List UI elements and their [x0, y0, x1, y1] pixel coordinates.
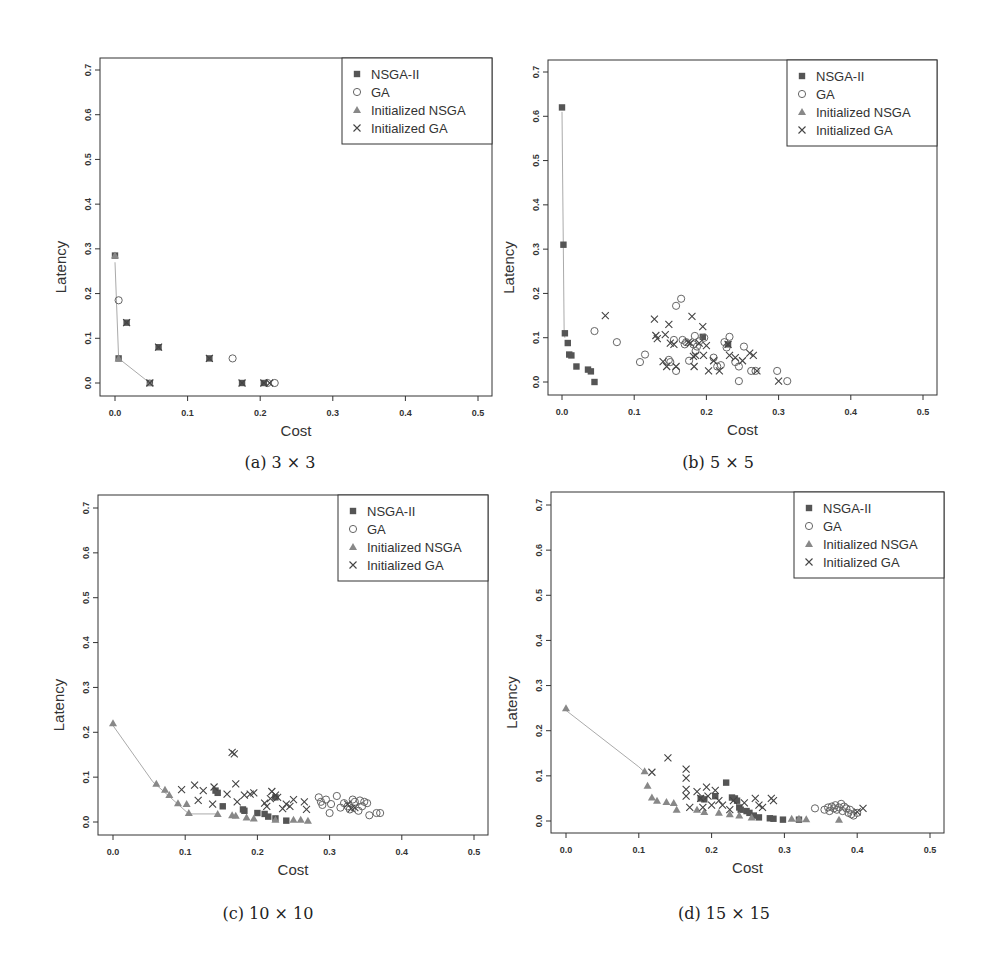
scatter-plot-5x5: 0.00.10.20.30.40.50.00.10.20.30.40.50.60… [494, 0, 991, 460]
series-ga [811, 800, 860, 819]
data-point [670, 799, 678, 806]
data-point [700, 352, 707, 359]
y-tick-label: 0.5 [81, 591, 91, 604]
series-initialized-ga [123, 319, 273, 386]
data-point [326, 809, 333, 816]
data-point [648, 769, 655, 776]
series-initialized-ga [648, 754, 866, 815]
caption-3x3: (a) 3 × 3 [180, 453, 380, 472]
data-point [732, 354, 739, 361]
data-point [835, 816, 843, 823]
legend-marker-square-icon [350, 508, 356, 514]
data-point [174, 799, 182, 806]
data-point [263, 803, 270, 810]
y-tick-label: 0.1 [83, 332, 93, 345]
caption-15x15: (d) 15 × 15 [624, 904, 824, 923]
data-point [234, 798, 241, 805]
data-point [303, 806, 310, 813]
data-point [662, 331, 669, 338]
y-tick-label: 0.1 [531, 331, 541, 344]
data-point [214, 790, 220, 796]
data-point [699, 804, 706, 811]
data-point [161, 786, 169, 793]
data-point [752, 795, 759, 802]
data-point [756, 814, 762, 820]
data-point [752, 367, 759, 374]
data-point [665, 321, 672, 328]
data-point [231, 750, 238, 757]
data-point [220, 803, 226, 809]
data-point [759, 804, 766, 811]
data-point [185, 809, 193, 816]
data-point [152, 780, 160, 787]
data-point [683, 786, 690, 793]
legend-entry: NSGA-II [367, 504, 415, 519]
data-point [279, 805, 286, 812]
data-point [562, 330, 568, 336]
data-point [229, 749, 236, 756]
y-tick-label: 0.0 [83, 377, 93, 390]
legend-entry: Initialized GA [371, 121, 448, 136]
data-point [588, 368, 594, 374]
legend-entry: NSGA-II [371, 67, 419, 82]
data-point [297, 816, 305, 823]
caption-10x10: (c) 10 × 10 [168, 904, 368, 923]
x-tick-label: 0.5 [924, 845, 937, 855]
data-point [726, 810, 734, 817]
data-point [283, 801, 290, 808]
scatter-plot-10x10: 0.00.10.20.30.40.50.00.10.20.30.40.50.60… [0, 480, 497, 900]
data-point [191, 782, 198, 789]
x-tick-label: 0.1 [633, 845, 646, 855]
data-point [283, 817, 289, 823]
data-point [591, 379, 597, 385]
y-tick-label: 0.7 [81, 502, 91, 515]
data-point [726, 333, 733, 340]
data-point [641, 767, 649, 774]
data-point [109, 719, 117, 726]
x-tick-label: 0.3 [323, 847, 336, 857]
x-tick-label: 0.0 [109, 408, 122, 418]
legend-entry: Initialized NSGA [816, 105, 911, 120]
data-point [229, 355, 236, 362]
data-point [691, 363, 698, 370]
x-tick-label: 0.5 [917, 407, 930, 417]
data-point [315, 794, 322, 801]
data-point [562, 704, 570, 711]
data-point [662, 798, 670, 805]
data-point [648, 794, 656, 801]
data-point [686, 804, 693, 811]
data-point [290, 816, 298, 823]
data-point [723, 779, 729, 785]
series-nsga-ii [697, 779, 802, 822]
legend-entry: NSGA-II [823, 501, 871, 516]
data-point [209, 801, 216, 808]
data-point [667, 358, 674, 365]
legend: NSGA-IIGAInitialized NSGAInitialized GA [342, 58, 492, 144]
data-point [740, 343, 747, 350]
y-tick-label: 0.0 [81, 816, 91, 829]
data-point [200, 787, 207, 794]
y-axis-label: Latency [52, 240, 69, 293]
data-point [241, 808, 247, 814]
data-point [286, 803, 293, 810]
data-point [775, 378, 782, 385]
data-point [178, 786, 185, 793]
data-point [663, 363, 670, 370]
data-point [774, 367, 781, 374]
y-tick-label: 0.5 [83, 153, 93, 166]
data-point [746, 350, 753, 357]
data-point [705, 367, 712, 374]
legend-entry: GA [816, 87, 835, 102]
legend-entry: Initialized GA [367, 558, 444, 573]
data-point [694, 788, 701, 795]
y-tick-label: 0.6 [81, 547, 91, 560]
y-tick-label: 0.0 [534, 815, 544, 828]
legend-marker-square-icon [354, 71, 360, 77]
data-point [265, 813, 271, 819]
y-tick-label: 0.3 [81, 681, 91, 694]
x-tick-label: 0.3 [772, 407, 785, 417]
data-point [290, 796, 297, 803]
y-tick-label: 0.3 [531, 243, 541, 256]
data-point [654, 335, 661, 342]
data-point [613, 339, 620, 346]
